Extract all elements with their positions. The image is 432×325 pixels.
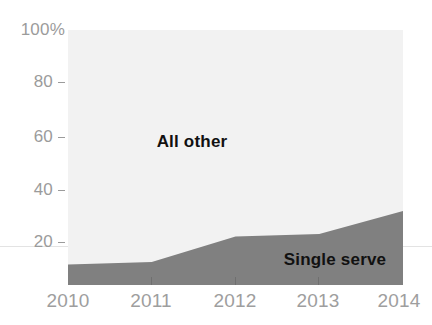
y-tick-dash-80 bbox=[58, 82, 65, 83]
x-tick-label-2013: 2013 bbox=[296, 290, 339, 312]
plot-area bbox=[68, 30, 403, 285]
series-label-single-serve: Single serve bbox=[284, 250, 387, 270]
x-tick-label-2012: 2012 bbox=[213, 290, 256, 312]
y-tick-dash-60 bbox=[58, 137, 65, 138]
single-serve-area bbox=[68, 211, 403, 285]
y-tick-label-40: 40 bbox=[34, 180, 53, 200]
y-tick-label-60: 60 bbox=[34, 127, 53, 147]
area-chart: 100% 80 60 40 20 2010 2011 2012 2013 201… bbox=[0, 0, 432, 325]
x-axis: 2010 2011 2012 2013 2014 bbox=[0, 290, 432, 325]
x-tick-mark-2011 bbox=[151, 277, 152, 285]
x-tick-label-2010: 2010 bbox=[46, 290, 89, 312]
y-tick-dash-40 bbox=[58, 190, 65, 191]
y-tick-80: 80 bbox=[34, 72, 68, 92]
y-tick-dash-20 bbox=[58, 242, 65, 243]
y-tick-20: 20 bbox=[34, 232, 68, 252]
y-tick-100: 100% bbox=[21, 20, 68, 40]
x-tick-label-2014: 2014 bbox=[377, 290, 420, 312]
x-tick-mark-2012 bbox=[235, 277, 236, 285]
x-tick-mark-2013 bbox=[318, 277, 319, 285]
y-tick-60: 60 bbox=[34, 127, 68, 147]
single-serve-area-svg bbox=[68, 30, 403, 285]
y-axis: 100% 80 60 40 20 bbox=[0, 0, 68, 325]
series-label-all-other: All other bbox=[157, 132, 228, 152]
y-tick-label-20: 20 bbox=[34, 232, 53, 252]
y-tick-label-80: 80 bbox=[34, 72, 53, 92]
y-tick-40: 40 bbox=[34, 180, 68, 200]
x-tick-label-2011: 2011 bbox=[130, 290, 172, 312]
y-tick-label-100: 100% bbox=[21, 20, 65, 40]
